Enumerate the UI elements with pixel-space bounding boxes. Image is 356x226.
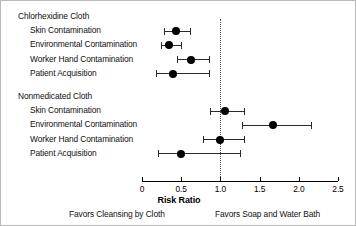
x-axis-tick (220, 177, 221, 181)
x-axis: 00.51.01.52.02.5 (1, 1, 356, 226)
x-axis-tick-label: 1.5 (245, 184, 275, 194)
x-axis-tick-label: 2.0 (284, 184, 314, 194)
x-axis-tick-label: 0.5 (166, 184, 196, 194)
axis-baseline (142, 181, 338, 182)
x-axis-tick-label: 2.5 (323, 184, 353, 194)
x-axis-tick (299, 177, 300, 181)
x-axis-tick (260, 177, 261, 181)
footnote-favors-left: Favors Cleansing by Cloth (69, 209, 165, 219)
forest-plot-figure: Chlorhexidine ClothSkin ContaminationEnv… (0, 0, 356, 226)
x-axis-title: Risk Ratio (1, 195, 356, 205)
x-axis-tick-label: 0 (127, 184, 157, 194)
x-axis-tick (338, 177, 339, 181)
x-axis-tick-label: 1.0 (205, 184, 235, 194)
x-axis-tick (181, 177, 182, 181)
x-axis-tick (142, 177, 143, 181)
footnote-favors-right: Favors Soap and Water Bath (215, 209, 320, 219)
